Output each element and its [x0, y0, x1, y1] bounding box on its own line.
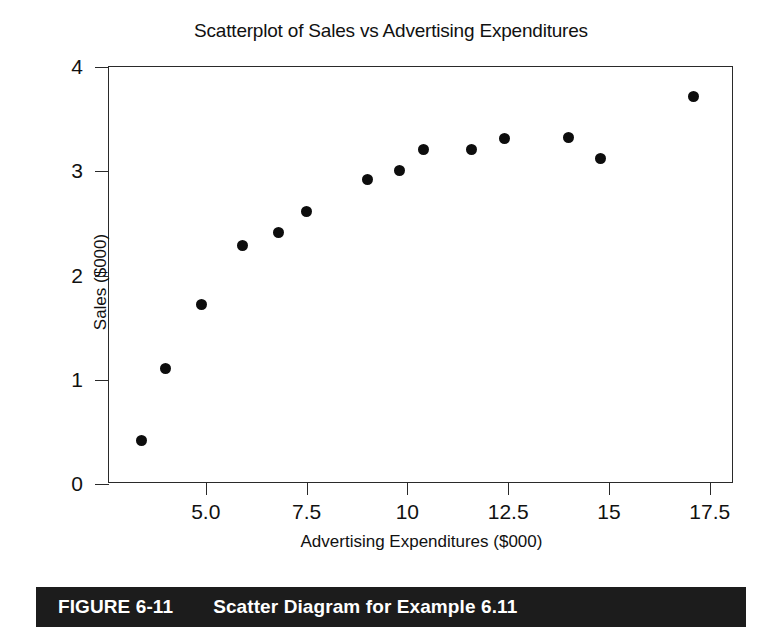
y-tick-mark — [95, 171, 109, 172]
chart-title: Scatterplot of Sales vs Advertising Expe… — [0, 20, 782, 42]
x-tick-label: 12.5 — [488, 500, 529, 524]
data-point — [688, 91, 699, 102]
data-point — [499, 133, 510, 144]
plot-area: Sales ($000) 01234 5.07.51012.51517.5 Ad… — [108, 66, 733, 483]
data-point — [362, 174, 373, 185]
x-tick-label: 17.5 — [689, 500, 730, 524]
x-axis-title: Advertising Expenditures ($000) — [109, 532, 734, 552]
data-point — [301, 206, 312, 217]
data-point — [196, 299, 207, 310]
x-tick-mark — [407, 482, 408, 495]
y-tick-label: 4 — [37, 56, 83, 77]
y-tick-mark — [95, 484, 109, 485]
x-tick-label: 15 — [597, 500, 620, 524]
data-point — [273, 227, 284, 238]
x-tick-mark — [508, 482, 509, 495]
y-tick-label: 2 — [37, 265, 83, 286]
data-point — [595, 153, 606, 164]
caption-title: Scatter Diagram for Example 6.11 — [213, 596, 517, 618]
data-point — [418, 144, 429, 155]
data-point — [466, 144, 477, 155]
x-tick-mark — [609, 482, 610, 495]
data-point — [394, 165, 405, 176]
y-tick-label: 1 — [37, 369, 83, 390]
figure-container: Scatterplot of Sales vs Advertising Expe… — [0, 0, 782, 640]
x-tick-label: 7.5 — [292, 500, 321, 524]
data-point — [160, 363, 171, 374]
x-tick-mark — [206, 482, 207, 495]
caption-figure-number: FIGURE 6-11 — [58, 596, 173, 618]
x-tick-label: 10 — [396, 500, 419, 524]
data-point — [563, 132, 574, 143]
y-tick-label: 0 — [37, 473, 83, 494]
y-tick-mark — [95, 380, 109, 381]
data-point — [136, 435, 147, 446]
scatter-points-layer — [109, 67, 732, 482]
y-axis-title: Sales ($000) — [91, 234, 111, 330]
y-tick-mark — [95, 276, 109, 277]
y-tick-mark — [95, 67, 109, 68]
x-tick-mark — [710, 482, 711, 495]
figure-caption-bar: FIGURE 6-11 Scatter Diagram for Example … — [36, 587, 746, 627]
data-point — [237, 240, 248, 251]
x-tick-label: 5.0 — [191, 500, 220, 524]
x-tick-mark — [307, 482, 308, 495]
y-tick-label: 3 — [37, 160, 83, 181]
